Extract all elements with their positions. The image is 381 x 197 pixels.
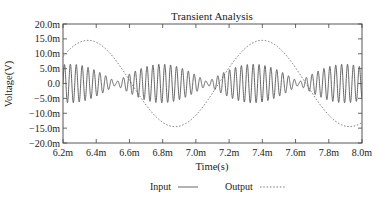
legend-input-label: Input xyxy=(150,181,171,192)
y-tick-label: 15.0m xyxy=(35,33,61,44)
x-tick-label: 6.2m xyxy=(53,147,74,158)
x-axis-label: Time(s) xyxy=(196,161,229,173)
y-tick-label: −15.0m xyxy=(29,123,60,134)
x-tick-label: 7.0m xyxy=(186,147,207,158)
chart-title: Transient Analysis xyxy=(171,10,253,22)
x-tick-label: 6.6m xyxy=(119,147,140,158)
x-tick-label: 8.0m xyxy=(352,147,373,158)
y-tick-label: −10.0m xyxy=(29,108,60,119)
y-tick-label: 10.0m xyxy=(35,48,61,59)
x-tick-label: 6.4m xyxy=(86,147,107,158)
legend: Input Output xyxy=(150,181,285,192)
input-series-line xyxy=(63,64,362,103)
y-tick-label: 0.0 xyxy=(48,78,61,89)
plot-area: 20.0m15.0m10.0m5.0m0.0−5.0m−10.0m−15.0m−… xyxy=(29,19,372,159)
x-tick-label: 7.8m xyxy=(319,147,340,158)
y-tick-label: −5.0m xyxy=(34,93,60,104)
x-tick-label: 7.2m xyxy=(219,147,240,158)
x-tick-label: 6.8m xyxy=(153,147,174,158)
x-tick-label: 7.4m xyxy=(252,147,273,158)
legend-output-label: Output xyxy=(225,181,253,192)
output-series-line xyxy=(63,40,362,126)
y-axis-label: Voltage(V) xyxy=(3,60,15,107)
transient-analysis-chart: Transient Analysis 20.0m15.0m10.0m5.0m0.… xyxy=(0,0,381,197)
y-tick-label: 5.0m xyxy=(40,63,61,74)
plot-frame xyxy=(63,24,362,143)
x-axis-ticks: 6.2m6.4m6.6m6.8m7.0m7.2m7.4m7.6m7.8m8.0m xyxy=(53,24,373,158)
y-tick-label: 20.0m xyxy=(35,19,61,30)
x-tick-label: 7.6m xyxy=(285,147,306,158)
